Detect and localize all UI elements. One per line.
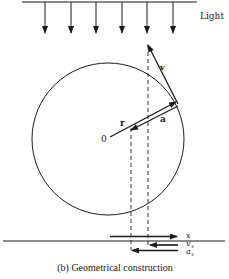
- figure-caption: (b) Geometrical construction: [57, 262, 173, 274]
- origin-label: 0: [101, 134, 107, 144]
- light-label: Light: [200, 11, 224, 21]
- radius-label: r: [120, 118, 125, 128]
- light-source: Light: [22, 2, 224, 33]
- acceleration-label: a: [160, 114, 166, 124]
- acceleration-vector-a: [131, 106, 178, 130]
- vx-label-sub: x: [191, 243, 195, 249]
- circular-path: [32, 63, 184, 215]
- ax-label-sub: x: [191, 251, 195, 257]
- geometrical-construction-diagram: Light 0 r a v x v x a x (b) Geometrical …: [0, 0, 229, 279]
- velocity-vector-v: [148, 45, 178, 104]
- velocity-label: v: [159, 62, 165, 72]
